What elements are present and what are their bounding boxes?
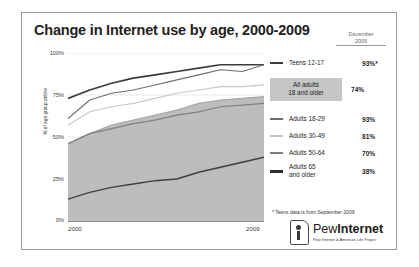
- legend-value: 93%: [362, 116, 388, 123]
- plot-area: [68, 53, 264, 221]
- y-tick-75: 75%: [34, 92, 64, 98]
- legend-value: 70%: [362, 150, 388, 157]
- date-column-header: December 2009: [336, 31, 386, 46]
- chart-legend: Teens 12-17 93%* All adults 18 and older…: [270, 55, 388, 181]
- logo-text: PewInternet Pew Internet & American Life…: [313, 223, 383, 241]
- legend-highlight-value: 74%: [351, 86, 377, 93]
- logo-tagline: Pew Internet & American Life Project: [313, 238, 383, 242]
- legend-item-teens[interactable]: Teens 12-17 93%*: [270, 55, 388, 71]
- page-title: Change in Internet use by age, 2000-2009: [34, 22, 310, 38]
- legend-highlight-label-line1: All adults: [293, 81, 319, 88]
- legend-swatch-icon: [270, 62, 283, 65]
- legend-item-all-adults[interactable]: All adults 18 and older 74%: [270, 76, 388, 102]
- chart-footnote: * Teens data is from September 2009: [272, 209, 392, 215]
- x-axis-line: [68, 221, 264, 222]
- y-tick-100: 100%: [34, 50, 64, 56]
- legend-label: Teens 12-17: [289, 59, 362, 67]
- y-tick-0: 0%: [34, 217, 64, 223]
- legend-value: 81%: [362, 133, 388, 140]
- legend-item-adults-30-49[interactable]: Adults 30-49 81%: [270, 128, 388, 144]
- x-tick-2000: 2000: [68, 225, 82, 232]
- legend-item-adults-18-29[interactable]: Adults 18-29 93%: [270, 111, 388, 127]
- legend-value: 38%: [362, 168, 388, 175]
- logo-name-light: Pew: [313, 222, 337, 236]
- legend-item-adults-65-plus[interactable]: Adults 65 and older 38%: [270, 162, 388, 180]
- y-tick-25: 25%: [34, 176, 64, 182]
- legend-label: Adults 18-29: [289, 115, 362, 123]
- logo-name-bold: Internet: [337, 222, 383, 236]
- plot-container: % of age group online 100% 75% 50% 25% 0…: [34, 49, 266, 244]
- chart-figure: Change in Internet use by age, 2000-2009…: [21, 12, 397, 250]
- legend-item-adults-50-64[interactable]: Adults 50-64 70%: [270, 145, 388, 161]
- legend-swatch-icon: [270, 170, 283, 173]
- y-tick-50: 50%: [34, 134, 64, 140]
- x-tick-2009: 2009: [246, 225, 260, 232]
- legend-label: Adults 65 and older: [289, 163, 362, 178]
- legend-label: Adults 50-64: [289, 149, 362, 157]
- date-header-year: 2009: [355, 38, 367, 44]
- legend-swatch-icon: [270, 118, 283, 120]
- legend-swatch-icon: [270, 152, 283, 154]
- legend-highlight-label-line2: 18 and older: [288, 89, 324, 96]
- pew-internet-logo: PewInternet Pew Internet & American Life…: [290, 220, 383, 245]
- legend-highlight-box: All adults 18 and older: [270, 78, 342, 101]
- chart-svg: [68, 53, 264, 221]
- logo-title: PewInternet: [313, 223, 383, 236]
- date-header-month: December: [349, 31, 374, 37]
- legend-label: Adults 30-49: [289, 132, 362, 140]
- legend-value: 93%*: [362, 60, 388, 67]
- pew-logo-mark-icon: [290, 220, 309, 245]
- legend-swatch-icon: [270, 135, 283, 137]
